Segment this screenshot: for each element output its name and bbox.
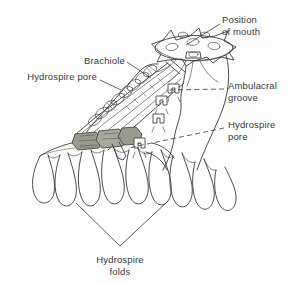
fold-lobe	[102, 148, 125, 204]
label-hydrospire-folds: Hydrospire folds	[78, 254, 162, 277]
disc-pore	[178, 32, 187, 38]
fold-web	[68, 152, 82, 156]
label-position-of-mouth: Position of mouth	[222, 14, 260, 37]
hydrospire-pore-arches	[133, 84, 180, 158]
pore-arch	[152, 114, 165, 132]
fold-web	[91, 150, 104, 153]
figure-container: .ln { fill:none; stroke:#3a3a3a; stroke-…	[0, 0, 305, 285]
fold-lobe	[215, 167, 236, 211]
fold-lobe	[149, 150, 172, 205]
fold-web	[114, 148, 129, 152]
disc-pore	[166, 43, 179, 52]
disc-groove	[200, 61, 218, 82]
shaded-hydrospire-blocks	[41, 127, 142, 160]
fold-lobe	[126, 148, 149, 204]
fold-web	[48, 155, 60, 158]
label-hydrospire-pore-left: Hydrospire pore	[3, 71, 97, 83]
pore-arch	[155, 96, 168, 114]
label-brachiole: Brachiole	[3, 55, 125, 67]
anatomy-diagram-svg: .ln { fill:none; stroke:#3a3a3a; stroke-…	[0, 0, 305, 285]
theca-right-edge	[197, 55, 229, 170]
label-ambulacral-groove: Ambulacral groove	[228, 80, 277, 103]
fold-lobe	[193, 159, 215, 209]
leader-hydrospire-folds-bracket	[76, 201, 168, 246]
mouth-marker	[186, 52, 201, 58]
leader-hydrospire-pore-left	[100, 80, 121, 90]
fold-lobe	[78, 150, 100, 206]
pore-arch	[168, 84, 180, 102]
fold-lobe	[170, 153, 193, 207]
leader-brachiole	[127, 62, 151, 78]
disc-pore	[208, 42, 221, 51]
label-hydrospire-pore-right: Hydrospire pore	[228, 119, 275, 142]
fold-lobe	[33, 155, 55, 203]
pore-arch	[133, 138, 146, 158]
theca-body-outline	[146, 55, 229, 170]
disc-pore	[187, 38, 199, 45]
fold-lobe	[55, 153, 76, 206]
